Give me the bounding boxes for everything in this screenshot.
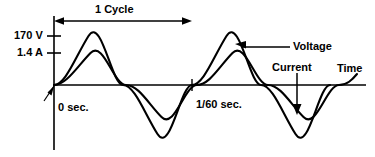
origin-time-label: 0 sec.	[58, 102, 89, 113]
period-time-label: 1/60 sec.	[196, 99, 242, 110]
cycle-arrowhead-right	[182, 17, 192, 25]
voltage-series-label: Voltage	[293, 41, 332, 52]
cycle-span-label: 1 Cycle	[95, 4, 134, 15]
y-axis-current-value-label: 1.4 A	[17, 47, 43, 58]
cycle-arrowhead-left	[54, 17, 64, 25]
time-axis-label: Time	[337, 63, 362, 74]
current-series-label: Current	[272, 62, 312, 73]
waveform-plot	[0, 0, 375, 157]
ac-waveform-figure: 170 V 1.4 A 1 Cycle 0 sec. 1/60 sec. Vol…	[0, 0, 375, 157]
y-axis-voltage-value-label: 170 V	[14, 30, 43, 41]
